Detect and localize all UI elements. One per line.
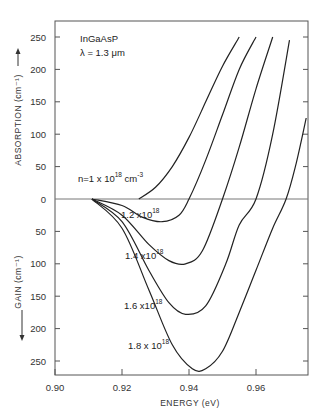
gain-absorption-chart: 25020015010050050100150200250 0.900.920.… bbox=[0, 0, 325, 419]
y-tick-label: 250 bbox=[30, 356, 46, 367]
y-axis-title-gain: GAIN (cm⁻¹) bbox=[13, 255, 23, 308]
curve-label: 1.2 x1018 bbox=[121, 207, 160, 220]
y-tick-label: 200 bbox=[30, 64, 46, 75]
y-tick-label: 150 bbox=[30, 96, 46, 107]
x-tick-label: 0.94 bbox=[180, 382, 199, 393]
absorption-arrow-icon bbox=[16, 48, 21, 66]
curve-label: 1.8 x 1018 bbox=[128, 338, 169, 351]
y-axis-title-absorption: ABSORPTION (cm⁻¹) bbox=[13, 74, 23, 165]
curve-label: n=1 x 1018 cm-3 bbox=[78, 171, 143, 184]
curve-1 bbox=[139, 37, 239, 199]
material-label: InGaAsP bbox=[80, 33, 118, 44]
svg-text:ABSORPTION (cm⁻¹): ABSORPTION (cm⁻¹) bbox=[13, 74, 23, 165]
x-tick-label: 0.92 bbox=[113, 382, 132, 393]
curve-label: 1.4 x1018 bbox=[125, 248, 164, 261]
x-axis-title: ENERGY (eV) bbox=[160, 398, 220, 408]
y-tick-label: 50 bbox=[35, 226, 46, 237]
svg-text:GAIN (cm⁻¹): GAIN (cm⁻¹) bbox=[13, 255, 23, 308]
x-axis-ticks: 0.900.920.940.96 bbox=[46, 369, 266, 393]
y-tick-label: 0 bbox=[41, 194, 46, 205]
y-tick-label: 100 bbox=[30, 129, 46, 140]
curve-5 bbox=[92, 118, 306, 371]
plot-frame bbox=[55, 21, 308, 375]
curves bbox=[92, 37, 306, 371]
y-tick-label: 200 bbox=[30, 323, 46, 334]
gain-arrow-icon bbox=[20, 310, 25, 341]
x-tick-label: 0.96 bbox=[247, 382, 266, 393]
y-tick-label: 50 bbox=[35, 161, 46, 172]
y-tick-label: 100 bbox=[30, 258, 46, 269]
y-tick-label: 150 bbox=[30, 291, 46, 302]
y-tick-label: 250 bbox=[30, 32, 46, 43]
x-tick-label: 0.90 bbox=[46, 382, 65, 393]
curve-labels: n=1 x 1018 cm-31.2 x10181.4 x10181.6 x10… bbox=[78, 171, 169, 351]
wavelength-label: λ = 1.3 μm bbox=[80, 47, 125, 58]
curve-2 bbox=[92, 37, 256, 222]
